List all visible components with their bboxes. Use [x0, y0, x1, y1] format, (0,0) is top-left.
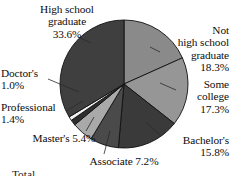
- pie-label-high-school-graduate: High school graduate 33.6%: [24, 3, 110, 40]
- cropped-caption-row: Total: [0, 171, 231, 176]
- pie-label-doctors: Doctor's 1.0%: [1, 67, 63, 92]
- pie-label-not-high-school-graduate: Not high school graduate 18.3%: [146, 24, 229, 74]
- pie-chart-figure: High school graduate 33.6% Not high scho…: [0, 0, 231, 176]
- pie-label-professional: Professional 1.4%: [1, 101, 81, 126]
- pie-label-some-college: Some college 17.3%: [176, 78, 229, 115]
- pie-label-masters: Master's 5.4%: [18, 132, 110, 144]
- pie-label-associate: Associate 7.2%: [78, 155, 170, 167]
- cropped-caption-text: Total: [12, 171, 35, 176]
